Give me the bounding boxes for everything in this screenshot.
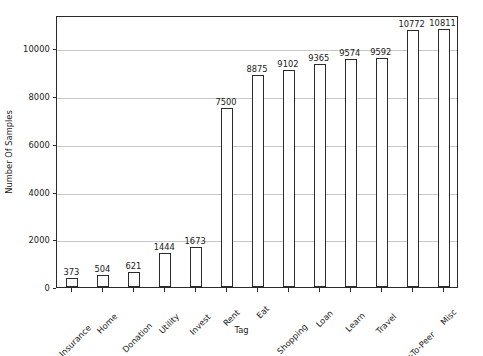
x-tick-mark [443, 288, 444, 292]
bar [407, 30, 419, 287]
y-tick-mark [53, 288, 57, 289]
y-tick-label: 2000 [28, 235, 50, 245]
bar-value-label: 1673 [185, 236, 206, 246]
bar-value-label: 621 [125, 261, 141, 271]
y-tick-label: 0 [45, 283, 50, 293]
x-tick-mark [257, 288, 258, 292]
bar-value-label: 373 [64, 267, 80, 277]
x-tick-mark [102, 288, 103, 292]
y-axis-title: Number Of Samples [4, 110, 14, 194]
x-tick-mark [133, 288, 134, 292]
bar-value-label: 504 [94, 264, 110, 274]
x-tick-mark [226, 288, 227, 292]
bar [252, 75, 264, 287]
x-tick-mark [195, 288, 196, 292]
bar [283, 70, 295, 287]
bar [221, 108, 233, 287]
x-tick-mark [319, 288, 320, 292]
bar-value-label: 9365 [308, 53, 329, 63]
x-tick-mark [350, 288, 351, 292]
y-tick-label: 6000 [28, 140, 50, 150]
x-tick-label: Learn [360, 294, 383, 317]
x-tick-mark [71, 288, 72, 292]
x-tick-label: Misc [451, 294, 471, 314]
x-tick-mark [381, 288, 382, 292]
bar [376, 58, 388, 287]
bar [438, 29, 450, 287]
x-tick-mark [412, 288, 413, 292]
x-tick-mark [288, 288, 289, 292]
x-tick-label: Rent [235, 294, 256, 315]
bar [66, 278, 78, 287]
bar-value-label: 10772 [398, 19, 424, 29]
x-tick-mark [164, 288, 165, 292]
bar-value-label: 10811 [429, 18, 455, 28]
x-tick-label: Eat [264, 294, 281, 311]
y-tick-label: 8000 [28, 92, 50, 102]
bar [128, 272, 140, 287]
bar-value-label: 8875 [246, 64, 267, 74]
y-tick-label: 10000 [23, 44, 50, 54]
bar [190, 247, 202, 287]
bar-chart-figure: Number Of Samples Tag 020004000600080001… [0, 0, 483, 356]
bar-value-label: 9592 [370, 47, 391, 57]
x-tick-label: Travel [391, 294, 416, 319]
bar-value-label: 1444 [154, 242, 175, 252]
bar [97, 275, 109, 287]
bar-value-label: 9102 [277, 59, 298, 69]
x-axis-title: Tag [0, 325, 483, 335]
bar [314, 64, 326, 287]
bar-value-label: 7500 [216, 97, 237, 107]
bar [159, 253, 171, 287]
plot-area [56, 16, 458, 288]
y-tick-label: 4000 [28, 188, 50, 198]
bar [345, 59, 357, 287]
gridline [57, 50, 457, 51]
bar-value-label: 9574 [339, 48, 360, 58]
